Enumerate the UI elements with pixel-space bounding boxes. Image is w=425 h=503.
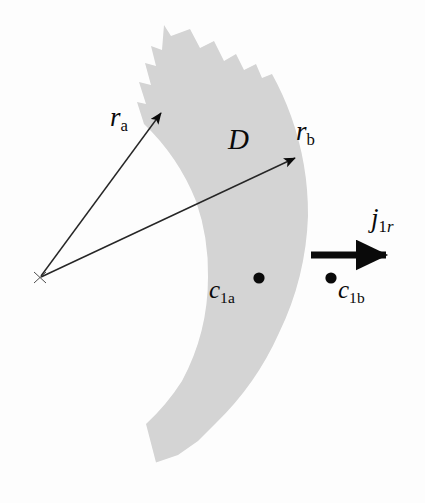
- label-diffusivity-variable: D: [228, 123, 249, 155]
- r-a-vector: [41, 113, 161, 276]
- shell-band: [137, 25, 308, 463]
- figure-canvas: [0, 0, 425, 503]
- point-c1a: [253, 272, 264, 283]
- label-r-b: rb: [296, 118, 315, 145]
- point-c1b: [325, 272, 336, 283]
- label-c-1b-subscript: 1b: [349, 289, 365, 306]
- label-flux-subscript-radial: r: [387, 217, 394, 236]
- label-c-1b: c1b: [338, 277, 365, 302]
- label-c-1a: c1a: [209, 277, 235, 302]
- label-c-1a-subscript: 1a: [220, 289, 235, 306]
- label-flux-subscript-number: 1: [379, 217, 388, 236]
- shell-band-group: [137, 25, 308, 463]
- label-flux-variable: j: [371, 203, 379, 233]
- label-c-1a-variable: c: [209, 276, 220, 303]
- figure-root: ra rb D j1r c1a c1b: [0, 0, 425, 503]
- label-r-a-variable: r: [110, 102, 121, 132]
- label-r-b-subscript: b: [307, 130, 316, 149]
- origin-vertex: [34, 272, 46, 283]
- label-r-a-subscript: a: [121, 116, 129, 135]
- label-r-b-variable: r: [296, 116, 307, 146]
- label-flux: j1r: [371, 205, 394, 232]
- label-c-1b-variable: c: [338, 276, 349, 303]
- label-r-a: ra: [110, 104, 128, 131]
- label-diffusivity: D: [228, 125, 249, 154]
- r-a-vector-group: [41, 113, 161, 276]
